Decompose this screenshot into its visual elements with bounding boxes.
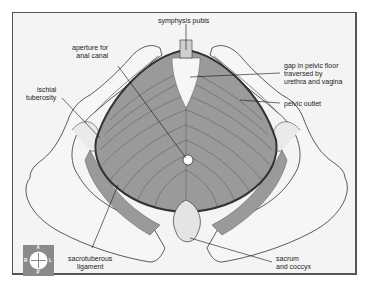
orientation-compass-icon: A P R L (23, 245, 54, 276)
compass-posterior: P (37, 270, 40, 275)
label-aperture-anal-canal: aperture for anal canal (72, 44, 108, 60)
compass-right: R (24, 258, 27, 263)
anal-aperture (183, 155, 193, 165)
label-sacrum-coccyx: sacrum and coccyx (276, 255, 311, 271)
compass-left: L (49, 258, 52, 263)
label-pelvic-outlet: pelvic outlet (284, 100, 321, 108)
pelvic-floor-illustration (0, 0, 372, 297)
label-symphysis-pubis: symphysis pubis (158, 17, 209, 25)
label-ischial-tuberosity: ischial tuberosity (26, 86, 56, 102)
label-gap-pelvic-floor: gap in pelvic floor traversed by urethra… (284, 62, 342, 86)
label-sacrotuberous-ligament: sacrotuberous ligament (68, 255, 112, 271)
compass-anterior: A (37, 245, 40, 250)
